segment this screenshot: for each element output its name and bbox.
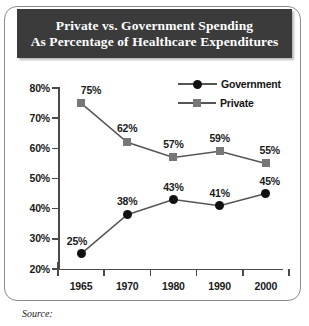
source-label: Source: <box>22 308 53 319</box>
data-label-government-1965: 25% <box>59 235 95 247</box>
legend-label-government: Government <box>221 78 281 90</box>
chart-figure: Private vs. Government Spending As Perce… <box>0 0 309 326</box>
data-point-private-1970 <box>123 138 131 146</box>
data-label-government-1970: 38% <box>109 195 145 207</box>
legend-item-private: Private <box>178 96 254 110</box>
data-label-private-2000: 55% <box>252 144 288 156</box>
data-label-private-1980: 57% <box>155 138 191 150</box>
data-point-private-1965 <box>77 99 85 107</box>
data-point-private-1980 <box>169 153 177 161</box>
data-label-government-1990: 41% <box>202 187 238 199</box>
data-label-private-1965: 75% <box>73 84 109 96</box>
data-point-government-1980 <box>169 195 178 204</box>
data-label-private-1970: 62% <box>109 122 145 134</box>
chart-legend: Government Private <box>178 76 290 112</box>
circle-marker-icon <box>193 80 202 89</box>
data-label-government-2000: 45% <box>252 175 288 187</box>
square-marker-icon <box>193 99 201 107</box>
data-point-government-1965 <box>77 249 86 258</box>
data-point-private-1990 <box>216 147 224 155</box>
data-label-private-1990: 59% <box>202 132 238 144</box>
plot-area: 20%30%40%50%60%70%80%1965197019801990200… <box>0 0 309 326</box>
data-label-government-1980: 43% <box>155 181 191 193</box>
legend-item-government: Government <box>178 77 281 91</box>
data-point-government-1970 <box>123 210 132 219</box>
data-point-private-2000 <box>262 159 270 167</box>
legend-label-private: Private <box>220 97 254 109</box>
